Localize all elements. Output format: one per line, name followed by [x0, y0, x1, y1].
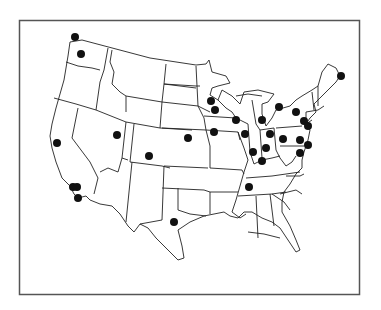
pa-ny: [276, 126, 302, 128]
in-oh: [260, 130, 262, 158]
location-marker-co-1: [145, 152, 153, 160]
location-marker-ny-w-1: [275, 103, 283, 111]
wy-ut-co: [126, 102, 162, 128]
mo-ar: [210, 168, 244, 174]
location-marker-me-1: [337, 72, 345, 80]
location-marker-ca-1: [53, 139, 61, 147]
location-marker-oh-1: [266, 130, 274, 138]
mi-upper: [236, 94, 262, 96]
nm-tx: [140, 166, 164, 224]
wa-or-border: [66, 62, 100, 70]
location-marker-wi-1: [232, 116, 240, 124]
ok-north: [162, 188, 210, 192]
location-marker-md-1: [296, 149, 304, 157]
nv-ut-border: [96, 110, 126, 172]
us-outline: [50, 40, 340, 260]
ok-panhandle: [178, 188, 206, 216]
location-marker-ky-1: [258, 157, 266, 165]
or-ca-border: [54, 98, 96, 110]
az-nm: [126, 162, 132, 222]
ut-az: [122, 158, 128, 160]
il-in: [248, 124, 254, 164]
state-boundaries: [50, 40, 340, 260]
location-marker-tn-1: [245, 183, 253, 191]
location-marker-tx-1: [170, 218, 178, 226]
us-map-figure: [0, 0, 381, 310]
location-marker-ut-1: [113, 131, 121, 139]
location-marker-ia-1: [210, 128, 218, 136]
va-wv: [276, 150, 296, 166]
ks-ok: [164, 166, 208, 168]
id-west: [96, 48, 108, 110]
location-marker-nj-2: [304, 141, 312, 149]
ms-al: [256, 196, 258, 238]
tn-south: [238, 192, 286, 196]
map-frame-border: [20, 21, 360, 295]
location-marker-mn-2: [211, 106, 219, 114]
id-east: [110, 50, 126, 96]
ga-fl: [248, 232, 280, 238]
ky-north: [254, 156, 280, 164]
ca-nv-border: [72, 108, 98, 194]
location-marker-ny-1: [292, 108, 300, 116]
ut-co-border: [130, 124, 134, 162]
mn-wi: [218, 100, 236, 118]
mn-ia: [204, 116, 236, 118]
location-marker-mi-1: [258, 116, 266, 124]
mt-wy-border: [126, 84, 164, 102]
location-marker-il-1: [241, 130, 249, 138]
location-marker-oh-2: [262, 144, 270, 152]
ga-sc: [272, 194, 290, 210]
location-marker-pa-2: [296, 136, 304, 144]
sd-ne: [162, 102, 210, 112]
location-marker-in-1: [249, 148, 257, 156]
vt-nh: [312, 92, 314, 110]
us-map: [0, 0, 381, 310]
oh-pa: [274, 128, 276, 150]
location-marker-ks-1: [184, 134, 192, 142]
ky-tn: [246, 172, 300, 178]
location-marker-pa-1: [279, 135, 287, 143]
location-marker-ca-3: [73, 183, 81, 191]
location-marker-wa-2: [77, 50, 85, 58]
location-marker-ca-4: [74, 194, 82, 202]
location-marker-wa-1: [71, 33, 79, 41]
mi-lower: [252, 100, 274, 130]
location-marker-mn-1: [207, 97, 215, 105]
ne-east: [198, 106, 210, 168]
location-marker-nj-1: [304, 122, 312, 130]
